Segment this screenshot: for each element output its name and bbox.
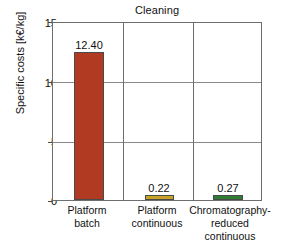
x-category-line: reduced (178, 217, 282, 230)
bar-platform-continuous[interactable] (145, 195, 174, 200)
y-axis-title: Specific costs [k€/kg] (14, 0, 26, 138)
category-divider-2 (193, 23, 194, 200)
x-category-line: continuous (178, 230, 282, 243)
x-category-line: Chromatography- (178, 204, 282, 217)
y-tick-mark-0 (48, 201, 53, 202)
bar-chromatography-reduced-continuous[interactable] (213, 195, 243, 200)
bar-value-platform-continuous: 0.22 (129, 183, 189, 194)
category-divider-1 (123, 23, 124, 200)
bar-chart: Cleaning Specific costs [k€/kg] 0 5 10 1… (0, 0, 283, 250)
bar-value-chromatography-reduced-continuous: 0.27 (198, 183, 258, 194)
plot-area: 12.40 0.22 0.27 (52, 22, 262, 201)
bar-value-platform-batch: 12.40 (59, 40, 119, 51)
bar-platform-batch[interactable] (74, 52, 104, 200)
x-category-label-chromatography-reduced-continuous: Chromatography- reduced continuous (178, 204, 282, 243)
chart-title: Cleaning (52, 4, 262, 17)
